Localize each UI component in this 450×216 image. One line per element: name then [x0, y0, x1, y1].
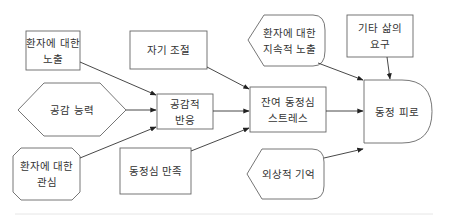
node-compassion-fatigue-label: 동정 피로	[364, 80, 430, 143]
edge-memories-to-fatigue	[324, 149, 363, 158]
node-empathic-response-label: 공감적 반응	[157, 94, 213, 129]
compassion-fatigue-diagram: 환자에 대한 노출 자기 조절 공감 능력 공감적 반응 환자에 대한 관심 동…	[0, 0, 450, 216]
node-self-regulation-label: 자기 조절	[130, 31, 207, 69]
node-empathic-ability-label: 공감 능력	[18, 83, 126, 136]
node-other-demands-label: 기타 삶의 요구	[347, 15, 413, 57]
edge-demands-to-fatigue	[387, 57, 390, 79]
node-exposure-label: 환자에 대한 노출	[26, 31, 80, 70]
node-prolonged-exposure-label: 환자에 대한 지속적 노출	[254, 15, 325, 66]
node-compassion-satisfaction-label: 동정심 만족	[120, 148, 191, 194]
edge-self-regulation-to-stress	[207, 67, 249, 89]
node-empathic-concern-label: 환자에 대한 관심	[13, 148, 80, 200]
node-traumatic-memories-label: 외상적 기억	[253, 149, 324, 199]
edge-satisfaction-to-stress	[191, 128, 249, 151]
node-residual-stress-label: 잔여 동정심 스트레스	[250, 87, 326, 132]
